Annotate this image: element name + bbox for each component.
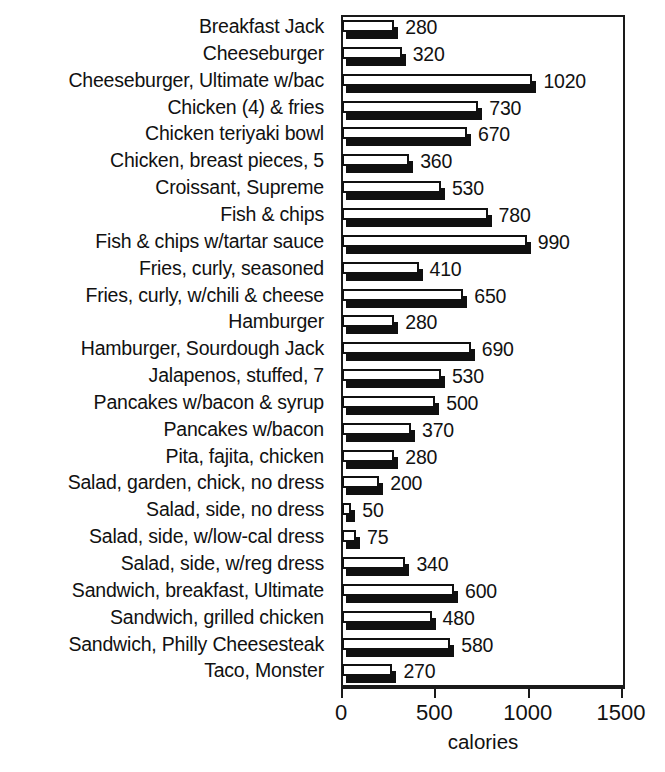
x-axis-tick <box>621 687 623 698</box>
x-axis-title: calories <box>341 730 625 754</box>
bar-face <box>342 127 467 139</box>
category-label: Fries, curly, w/chili & cheese <box>0 285 332 305</box>
bar-row: 990 <box>341 235 625 261</box>
bar-value-label: 530 <box>452 366 484 386</box>
x-axis-tick-label: 0 <box>335 700 347 726</box>
bar-face <box>342 101 478 113</box>
bar-face <box>342 181 441 193</box>
bar-value-label: 690 <box>482 339 514 359</box>
category-label: Pita, fajita, chicken <box>0 446 332 466</box>
category-label: Cheeseburger <box>0 43 332 63</box>
bar-value-label: 650 <box>474 286 506 306</box>
bar-face <box>342 47 402 59</box>
bar-value-label: 340 <box>416 554 448 574</box>
bar-row: 600 <box>341 584 625 610</box>
bar-face <box>342 154 409 166</box>
category-label: Chicken, breast pieces, 5 <box>0 150 332 170</box>
bar-value-label: 990 <box>538 232 570 252</box>
x-axis-tick <box>434 687 436 698</box>
bar-row: 780 <box>341 208 625 234</box>
category-label: Hamburger, Sourdough Jack <box>0 338 332 358</box>
bar-value-label: 50 <box>362 500 383 520</box>
category-label: Fries, curly, seasoned <box>0 258 332 278</box>
bar-row: 580 <box>341 638 625 664</box>
category-label: Fish & chips w/tartar sauce <box>0 231 332 251</box>
bar-value-label: 480 <box>443 608 475 628</box>
bar-row: 370 <box>341 423 625 449</box>
bar-face <box>342 369 441 381</box>
x-axis-line <box>341 687 625 689</box>
calories-bar-chart: Breakfast JackCheeseburgerCheeseburger, … <box>0 0 665 772</box>
bar-value-label: 280 <box>405 447 437 467</box>
category-label: Salad, side, no dress <box>0 499 332 519</box>
x-axis-tick <box>528 687 530 698</box>
bar-face <box>342 342 471 354</box>
bar-value-label: 1020 <box>543 71 586 91</box>
category-label: Sandwich, breakfast, Ultimate <box>0 580 332 600</box>
bar-value-label: 280 <box>405 312 437 332</box>
bar-face <box>342 235 527 247</box>
bar-row: 650 <box>341 289 625 315</box>
category-label: Salad, garden, chick, no dress <box>0 472 332 492</box>
bar-face <box>342 423 411 435</box>
bar-face <box>342 289 463 301</box>
bar-row: 320 <box>341 47 625 73</box>
bar-value-label: 780 <box>499 205 531 225</box>
x-axis-tick-label: 1000 <box>503 700 552 726</box>
category-label: Taco, Monster <box>0 660 332 680</box>
bar-value-label: 270 <box>403 661 435 681</box>
bar-face <box>342 530 356 542</box>
bar-face <box>342 503 351 515</box>
bar-row: 480 <box>341 611 625 637</box>
category-label: Chicken teriyaki bowl <box>0 123 332 143</box>
bar-row: 670 <box>341 127 625 153</box>
bar-face <box>342 584 454 596</box>
bar-value-label: 730 <box>489 98 521 118</box>
category-label: Pancakes w/bacon <box>0 419 332 439</box>
category-label: Fish & chips <box>0 204 332 224</box>
bar-value-label: 530 <box>452 178 484 198</box>
x-axis-tick-label: 1500 <box>597 700 646 726</box>
bar-row: 1020 <box>341 74 625 100</box>
bar-value-label: 200 <box>390 473 422 493</box>
bar-face <box>342 315 394 327</box>
bar-value-label: 410 <box>430 259 462 279</box>
bar-face <box>342 396 435 408</box>
category-label: Sandwich, Philly Cheesesteak <box>0 634 332 654</box>
bar-value-label: 360 <box>420 151 452 171</box>
category-label: Cheeseburger, Ultimate w/bac <box>0 70 332 90</box>
category-label: Sandwich, grilled chicken <box>0 607 332 627</box>
bar-row: 75 <box>341 530 625 556</box>
bar-face <box>342 208 488 220</box>
bars-layer: 2803201020730670360530780990410650280690… <box>341 15 625 687</box>
x-axis-tick <box>341 687 343 698</box>
bar-row: 530 <box>341 181 625 207</box>
bar-row: 410 <box>341 262 625 288</box>
bar-face <box>342 664 392 676</box>
category-label: Breakfast Jack <box>0 16 332 36</box>
bar-value-label: 75 <box>367 527 388 547</box>
bar-row: 500 <box>341 396 625 422</box>
bar-face <box>342 20 394 32</box>
category-label: Salad, side, w/reg dress <box>0 553 332 573</box>
bar-face <box>342 74 532 86</box>
bar-row: 530 <box>341 369 625 395</box>
bar-face <box>342 262 419 274</box>
bar-value-label: 670 <box>478 124 510 144</box>
bar-value-label: 370 <box>422 420 454 440</box>
x-axis-tick-label: 500 <box>416 700 453 726</box>
category-label: Hamburger <box>0 311 332 331</box>
bar-face <box>342 450 394 462</box>
bar-value-label: 500 <box>446 393 478 413</box>
category-label: Pancakes w/bacon & syrup <box>0 392 332 412</box>
bar-face <box>342 638 450 650</box>
bar-face <box>342 476 379 488</box>
bar-value-label: 320 <box>413 44 445 64</box>
bar-row: 280 <box>341 450 625 476</box>
bar-face <box>342 611 432 623</box>
bar-value-label: 280 <box>405 17 437 37</box>
bar-row: 280 <box>341 20 625 46</box>
category-label: Salad, side, w/low-cal dress <box>0 526 332 546</box>
bar-value-label: 580 <box>461 635 493 655</box>
category-label: Croissant, Supreme <box>0 177 332 197</box>
